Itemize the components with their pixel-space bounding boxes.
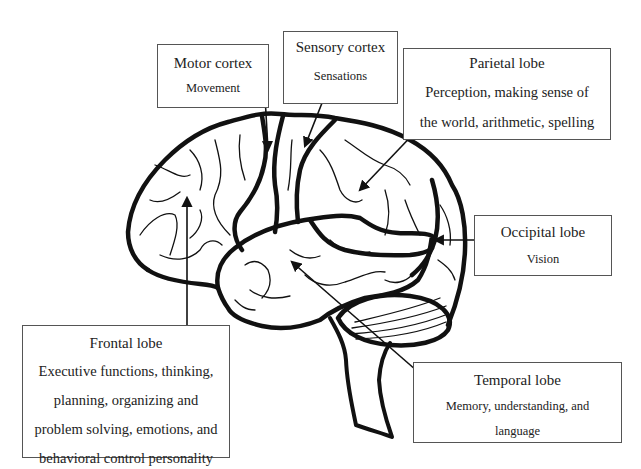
parietal-lobe-description-line-1: Perception, making sense of (404, 82, 610, 102)
parietal-lobe-title: Parietal lobe (404, 54, 610, 72)
parietal-lobe-description-line-2: the world, arithmetic, spelling (404, 112, 610, 132)
frontal-lobe-description-line-2: planning, organizing and (23, 390, 229, 410)
frontal-lobe-title: Frontal lobe (23, 334, 229, 352)
temporal-lobe-title: Temporal lobe (414, 371, 621, 389)
parietal-lobe-label-box: Parietal lobe Perception, making sense o… (403, 48, 611, 140)
brainstem (330, 318, 392, 437)
frontal-lobe-description-line-3: problem solving, emotions, and (23, 419, 229, 439)
motor-cortex-description: Movement (158, 80, 268, 96)
sensory-cortex-title: Sensory cortex (284, 38, 397, 56)
occipital-lobe-title: Occipital lobe (475, 223, 611, 241)
sensory-cortex-description: Sensations (284, 68, 397, 84)
frontal-lobe-description-line-1: Executive functions, thinking, (23, 361, 229, 381)
motor-cortex-title: Motor cortex (158, 54, 268, 72)
temporal-lobe-description-line-2: language (414, 423, 621, 439)
frontal-lobe-description-line-4: behavioral control personality (23, 448, 229, 468)
motor-cortex-label-box: Motor cortex Movement (157, 44, 269, 108)
frontal-lobe-label-box: Frontal lobe Executive functions, thinki… (22, 325, 230, 458)
temporal-lobe-description-line-1: Memory, understanding, and (414, 398, 621, 414)
sensory-cortex-label-box: Sensory cortex Sensations (283, 31, 398, 104)
occipital-lobe-description: Vision (475, 251, 611, 267)
temporal-lobe-label-box: Temporal lobe Memory, understanding, and… (413, 362, 622, 443)
occipital-lobe-label-box: Occipital lobe Vision (474, 215, 612, 276)
